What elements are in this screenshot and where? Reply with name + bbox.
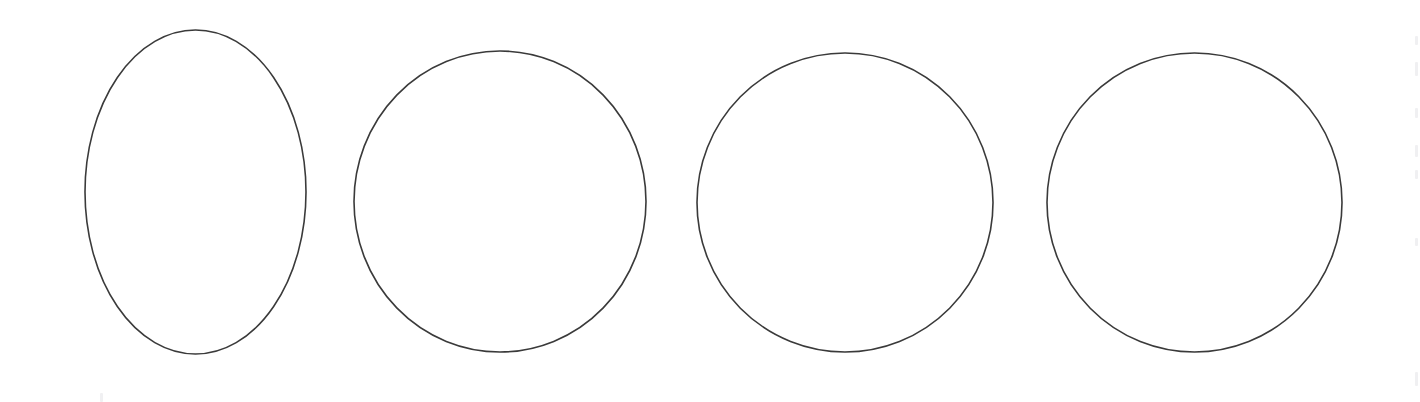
edge-scan-mark-4 bbox=[1415, 145, 1418, 157]
edge-scan-mark-7 bbox=[1415, 372, 1418, 386]
edge-scan-mark-6 bbox=[1415, 238, 1418, 246]
bottom-left-scan-artifact bbox=[100, 393, 103, 402]
edge-scan-mark-2 bbox=[1415, 62, 1418, 76]
right-edge-scan-artifacts bbox=[1398, 0, 1420, 402]
edge-scan-mark-3 bbox=[1415, 108, 1418, 118]
edge-scan-mark-1 bbox=[1415, 36, 1418, 45]
page-background bbox=[0, 0, 1420, 402]
shapes-figure bbox=[0, 0, 1420, 402]
figure-page bbox=[0, 0, 1420, 402]
edge-scan-mark-5 bbox=[1415, 170, 1418, 179]
